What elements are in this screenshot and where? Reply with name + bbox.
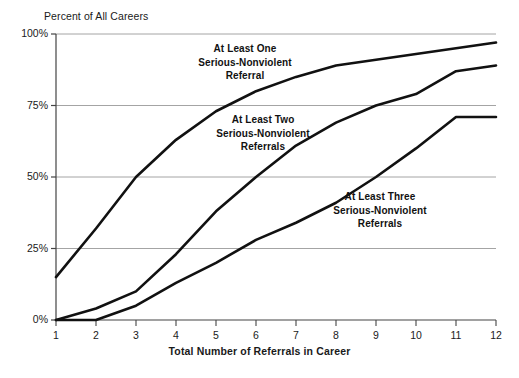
x-tick-label-4: 4 — [161, 329, 191, 341]
chart-container: Percent of All Careers 0%25%50%75%100% 1… — [0, 0, 519, 378]
x-tick-label-1: 1 — [41, 329, 71, 341]
x-tick-label-5: 5 — [201, 329, 231, 341]
x-tick-label-3: 3 — [121, 329, 151, 341]
y-tick-label-50%: 50% — [6, 170, 48, 182]
y-tick-label-100%: 100% — [6, 27, 48, 39]
annotation-line-3: Referral — [170, 69, 320, 83]
x-tick-label-6: 6 — [241, 329, 271, 341]
series-annotation-at-least-three: At Least ThreeSerious-NonviolentReferral… — [300, 190, 460, 231]
annotation-line-2: Serious-Nonviolent — [188, 127, 338, 141]
annotation-line-1: At Least Two — [188, 113, 338, 127]
annotation-line-3: Referrals — [188, 140, 338, 154]
x-axis-title: Total Number of Referrals in Career — [0, 345, 519, 357]
x-tick-label-2: 2 — [81, 329, 111, 341]
series-annotation-at-least-one: At Least OneSerious-NonviolentReferral — [170, 42, 320, 83]
y-tick-label-75%: 75% — [6, 99, 48, 111]
annotation-line-1: At Least Three — [300, 190, 460, 204]
y-tick-label-0%: 0% — [6, 313, 48, 325]
x-tick-label-7: 7 — [281, 329, 311, 341]
annotation-line-1: At Least One — [170, 42, 320, 56]
x-tick-label-8: 8 — [321, 329, 351, 341]
x-tick-label-12: 12 — [481, 329, 511, 341]
series-annotation-at-least-two: At Least TwoSerious-NonviolentReferrals — [188, 113, 338, 154]
x-tick-marks-group — [56, 320, 496, 326]
series-lines-group — [56, 43, 496, 320]
x-tick-label-10: 10 — [401, 329, 431, 341]
y-tick-label-25%: 25% — [6, 242, 48, 254]
x-tick-label-9: 9 — [361, 329, 391, 341]
annotation-line-2: Serious-Nonviolent — [170, 56, 320, 70]
annotation-line-2: Serious-Nonviolent — [300, 204, 460, 218]
x-tick-label-11: 11 — [441, 329, 471, 341]
annotation-line-3: Referrals — [300, 217, 460, 231]
